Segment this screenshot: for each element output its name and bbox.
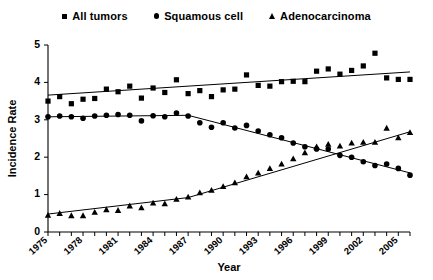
- incidence-rate-chart: All tumors Squamous cell Adenocarcinoma …: [0, 0, 433, 280]
- data-point-squamous-cell: [302, 144, 308, 150]
- data-point-squamous-cell: [349, 154, 355, 160]
- trend-line-squamous-cell: [48, 115, 410, 173]
- data-point-squamous-cell: [279, 135, 285, 141]
- y-tick-label: 3: [34, 113, 40, 125]
- data-point-adenocarcinoma: [80, 212, 86, 218]
- y-tick-label: 0: [34, 225, 40, 237]
- data-point-adenocarcinoma: [115, 207, 121, 213]
- data-point-squamous-cell: [209, 124, 215, 130]
- data-point-all-tumors: [337, 72, 342, 77]
- axes-group: [44, 45, 410, 236]
- data-point-adenocarcinoma: [150, 200, 156, 206]
- data-point-all-tumors: [361, 63, 366, 68]
- data-point-adenocarcinoma: [243, 173, 249, 179]
- data-point-squamous-cell: [244, 123, 250, 129]
- x-tick-label: 2002: [342, 234, 365, 256]
- data-point-all-tumors: [104, 87, 109, 92]
- data-point-adenocarcinoma: [383, 125, 389, 131]
- data-point-all-tumors: [326, 66, 331, 71]
- data-point-all-tumors: [92, 96, 97, 101]
- trend-line-all-tumors: [48, 72, 410, 95]
- data-point-squamous-cell: [290, 140, 296, 146]
- data-point-all-tumors: [115, 89, 120, 94]
- data-point-squamous-cell: [232, 125, 238, 131]
- data-point-all-tumors: [80, 97, 85, 102]
- data-point-squamous-cell: [185, 113, 191, 119]
- data-point-squamous-cell: [407, 172, 413, 178]
- data-point-all-tumors: [244, 72, 249, 77]
- data-point-squamous-cell: [325, 146, 331, 152]
- data-point-all-tumors: [57, 94, 62, 99]
- data-point-squamous-cell: [220, 120, 226, 126]
- y-tick-label: 1: [34, 187, 40, 199]
- data-point-squamous-cell: [127, 113, 133, 119]
- data-point-adenocarcinoma: [127, 203, 133, 209]
- data-point-adenocarcinoma: [325, 141, 331, 147]
- data-point-squamous-cell: [92, 113, 98, 119]
- y-axis-title: Incidence Rate: [6, 100, 18, 178]
- data-point-all-tumors: [209, 94, 214, 99]
- data-point-all-tumors: [372, 51, 377, 56]
- data-point-squamous-cell: [360, 159, 366, 165]
- data-point-all-tumors: [45, 99, 50, 104]
- data-point-adenocarcinoma: [162, 200, 168, 206]
- x-tick-label: 1981: [96, 234, 120, 257]
- data-point-all-tumors: [232, 87, 237, 92]
- data-point-adenocarcinoma: [255, 170, 261, 176]
- data-point-squamous-cell: [115, 112, 121, 118]
- data-point-all-tumors: [279, 79, 284, 84]
- data-point-squamous-cell: [197, 120, 203, 126]
- x-tick-label: 1984: [131, 234, 155, 257]
- data-point-all-tumors: [384, 75, 389, 80]
- data-point-all-tumors: [150, 85, 155, 90]
- y-tick-labels: 012345: [34, 38, 40, 237]
- data-point-all-tumors: [197, 88, 202, 93]
- data-point-squamous-cell: [372, 163, 378, 169]
- data-point-squamous-cell: [150, 113, 156, 119]
- data-point-squamous-cell: [104, 113, 110, 119]
- x-tick-labels: 1975197819811984198719901993199619992002…: [26, 234, 400, 257]
- data-point-squamous-cell: [69, 114, 75, 120]
- data-point-all-tumors: [162, 90, 167, 95]
- plot-area: 012345 197519781981198419871990199319961…: [0, 0, 433, 280]
- trend-lines-group: [48, 72, 410, 214]
- data-point-adenocarcinoma: [267, 165, 273, 171]
- data-point-squamous-cell: [139, 118, 145, 124]
- data-point-all-tumors: [302, 79, 307, 84]
- data-point-all-tumors: [267, 84, 272, 89]
- data-point-all-tumors: [186, 91, 191, 96]
- data-point-squamous-cell: [45, 114, 51, 120]
- data-point-adenocarcinoma: [302, 150, 308, 156]
- data-point-squamous-cell: [267, 132, 273, 138]
- data-point-all-tumors: [139, 96, 144, 101]
- data-point-all-tumors: [127, 84, 132, 89]
- data-point-all-tumors: [221, 87, 226, 92]
- data-point-squamous-cell: [80, 116, 86, 122]
- x-tick-label: 2005: [377, 234, 401, 257]
- data-point-squamous-cell: [57, 113, 63, 119]
- y-tick-label: 5: [34, 38, 40, 50]
- data-point-adenocarcinoma: [290, 155, 296, 161]
- data-point-adenocarcinoma: [68, 212, 74, 218]
- data-point-adenocarcinoma: [92, 209, 98, 215]
- data-point-squamous-cell: [337, 153, 343, 159]
- x-axis-title: Year: [217, 261, 241, 273]
- data-point-all-tumors: [174, 77, 179, 82]
- y-tick-label: 4: [34, 75, 40, 87]
- data-point-adenocarcinoma: [337, 143, 343, 149]
- y-tick-label: 2: [34, 150, 40, 162]
- data-point-squamous-cell: [174, 110, 180, 116]
- data-point-all-tumors: [349, 68, 354, 73]
- data-point-all-tumors: [256, 83, 261, 88]
- x-tick-label: 1999: [307, 234, 330, 256]
- data-point-squamous-cell: [396, 166, 402, 172]
- data-point-adenocarcinoma: [138, 204, 144, 210]
- data-point-all-tumors: [69, 101, 74, 106]
- data-point-squamous-cell: [255, 128, 261, 134]
- x-tick-label: 1978: [61, 234, 84, 256]
- data-point-all-tumors: [314, 69, 319, 74]
- x-tick-label: 1975: [26, 234, 50, 257]
- data-point-squamous-cell: [162, 114, 168, 120]
- data-point-adenocarcinoma: [313, 144, 319, 150]
- data-point-adenocarcinoma: [232, 179, 238, 185]
